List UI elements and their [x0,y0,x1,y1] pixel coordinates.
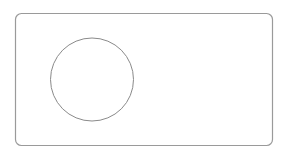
diagram-canvas [0,0,284,159]
rounded-rectangle-frame [16,14,273,146]
circle-shape [51,38,134,121]
